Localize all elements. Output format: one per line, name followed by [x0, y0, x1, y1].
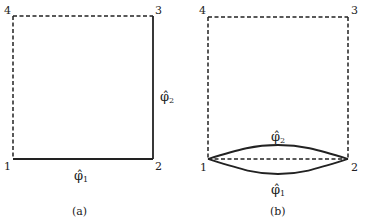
corner-label-4: 4 [199, 4, 206, 17]
phi1-label-a: φ̂ 1 [74, 168, 88, 184]
curve-phi2-upper [208, 145, 348, 159]
corner-label-2: 2 [351, 161, 358, 174]
panel-a: 4 3 1 2 φ̂ 1 φ̂ 2 (a) [4, 4, 174, 218]
corner-label-3: 3 [351, 4, 358, 17]
svg-text:φ̂: φ̂ [74, 168, 83, 183]
svg-text:2: 2 [169, 96, 174, 105]
svg-text:φ̂: φ̂ [271, 182, 280, 197]
caption-a: (a) [72, 205, 87, 218]
corner-label-1: 1 [4, 160, 11, 173]
corner-label-2: 2 [155, 160, 162, 173]
panel-b: 4 3 1 2 φ̂ 2 φ̂ 1 (b) [199, 4, 358, 218]
corner-label-1: 1 [200, 161, 207, 174]
svg-text:φ̂: φ̂ [271, 129, 280, 144]
caption-b: (b) [270, 205, 286, 218]
svg-text:1: 1 [280, 189, 285, 198]
svg-text:2: 2 [280, 136, 285, 145]
svg-text:1: 1 [83, 175, 88, 184]
figure: 4 3 1 2 φ̂ 1 φ̂ 2 (a) 4 3 1 2 φ̂ 2 φ̂ 1 [0, 0, 365, 221]
curve-phi1-lower [208, 159, 348, 174]
corner-label-3: 3 [155, 4, 162, 17]
corner-label-4: 4 [4, 4, 11, 17]
phi2-label-b: φ̂ 2 [271, 129, 285, 145]
phi1-label-b: φ̂ 1 [271, 182, 285, 198]
phi2-label-a: φ̂ 2 [160, 89, 174, 105]
svg-text:φ̂: φ̂ [160, 89, 169, 104]
